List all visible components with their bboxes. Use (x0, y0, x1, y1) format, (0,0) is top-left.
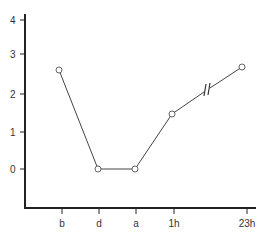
x-tick-label: 1h (168, 218, 179, 229)
data-series (56, 64, 245, 172)
cut-off-caption (14, 232, 254, 236)
data-point-23h (239, 64, 245, 70)
axis-break-icon (204, 83, 210, 96)
x-ticks: b d a 1h 23h (59, 208, 255, 229)
y-tick-label: 2 (10, 89, 16, 100)
y-tick-label: 4 (10, 15, 16, 26)
x-tick-label: b (59, 218, 65, 229)
x-tick-label: d (96, 218, 102, 229)
line-chart: 4 3 2 1 0 b d a 1h 23h (0, 0, 268, 236)
x-tick-label: a (133, 218, 139, 229)
y-tick-label: 3 (10, 49, 16, 60)
data-point-1h (169, 111, 175, 117)
x-tick-label: 23h (239, 218, 256, 229)
data-point-b (56, 67, 62, 73)
y-tick-label: 1 (10, 127, 16, 138)
data-point-a (132, 166, 138, 172)
y-ticks: 4 3 2 1 0 (10, 15, 25, 175)
data-point-d (95, 166, 101, 172)
y-tick-label: 0 (10, 164, 16, 175)
